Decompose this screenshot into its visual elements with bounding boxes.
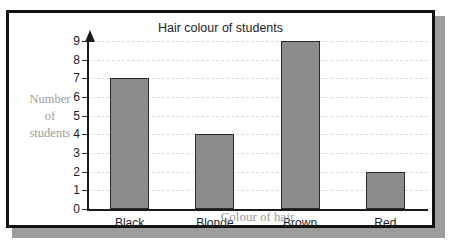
bar-brown[interactable] xyxy=(281,41,320,209)
bar-red[interactable] xyxy=(366,172,405,209)
plot-area: 0123456789 BlackBlondeBrownRed xyxy=(87,41,428,209)
bar-black[interactable] xyxy=(110,78,149,209)
y-axis-line xyxy=(87,41,89,209)
y-axis-tick-label: 6 xyxy=(62,91,80,103)
y-axis-tick-label: 3 xyxy=(62,147,80,159)
gridline xyxy=(87,41,428,42)
x-axis-title: Colour of hair xyxy=(87,209,428,225)
y-axis-tick-label: 9 xyxy=(62,35,80,47)
y-axis-tick-label: 5 xyxy=(62,110,80,122)
y-axis-tick-label: 2 xyxy=(62,166,80,178)
gridline xyxy=(87,60,428,61)
bar-chart: Hair colour of students Number of studen… xyxy=(9,13,432,225)
y-axis-tick-label: 1 xyxy=(62,184,80,196)
y-axis-tick-label: 7 xyxy=(62,72,80,84)
y-axis-tick-label: 8 xyxy=(62,54,80,66)
y-axis-arrow-icon xyxy=(85,30,95,42)
chart-figure-frame: Hair colour of students Number of studen… xyxy=(6,10,435,228)
y-axis-tick-label: 0 xyxy=(62,203,80,215)
y-axis-tick-label: 4 xyxy=(62,128,80,140)
bar-blonde[interactable] xyxy=(195,134,234,209)
chart-title: Hair colour of students xyxy=(9,21,432,35)
